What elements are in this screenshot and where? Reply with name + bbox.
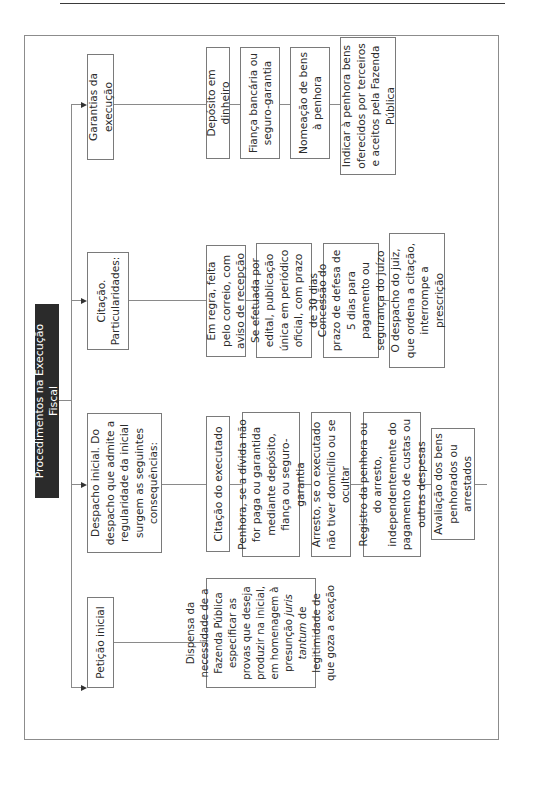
connector — [71, 104, 81, 105]
despacho-child-2: Penhora, se a dívida não for paga ou gar… — [242, 412, 300, 557]
citacao-child-3: Concessão do prazo de defesa de 5 dias p… — [323, 243, 379, 358]
root-title: Procedimentos na Execução Fiscal — [33, 309, 62, 493]
diagram-canvas: Procedimentos na Execução Fiscal Petição… — [24, 35, 499, 740]
node-peticao-inicial: Petição inicial — [87, 597, 114, 688]
connector — [71, 687, 81, 688]
node-label: Citação. Particularidades: — [94, 257, 123, 346]
connector — [71, 300, 81, 301]
node-label: Petição inicial — [93, 606, 108, 679]
despacho-child-4: Registro da penhora ou do arresto, indep… — [363, 412, 421, 557]
citacao-child-2: Se efetuada por edital, publicação única… — [256, 243, 312, 358]
garantias-child-2: Fiança bancária ou seguro-garantia — [240, 47, 280, 159]
page-top-rule — [60, 3, 505, 4]
garantias-child-4: Indicar à penhora bens oferecidos por te… — [340, 37, 396, 175]
citacao-child-4: O despacho do juiz, que ordena a citação… — [389, 233, 445, 368]
garantias-child-1: Depósito em dinheiro — [206, 47, 230, 159]
despacho-child-3: Arresto, se o executado não tiver domicí… — [311, 412, 351, 557]
node-label: Despacho inicial. Do despacho que admite… — [88, 418, 161, 548]
node-label: Garantias da execução — [86, 59, 115, 155]
garantias-child-3: Nomeação de bens à penhora — [290, 47, 330, 159]
node-despacho-inicial: Despacho inicial. Do despacho que admite… — [87, 413, 162, 553]
node-garantias-da-execucao: Garantias da execução — [87, 54, 114, 160]
peticao-child-text: Dispensa da necessidade de a Fazenda Púb… — [184, 583, 338, 683]
connector — [71, 104, 72, 688]
diagram-container: Procedimentos na Execução Fiscal Petição… — [24, 35, 499, 740]
citacao-child-1: Em regra, feita pelo correio, com aviso … — [206, 245, 246, 357]
node-citacao: Citação. Particularidades: — [87, 252, 129, 350]
despacho-child-5: Avaliação dos bens penhorados ou arresta… — [431, 428, 475, 540]
peticao-child-1: Dispensa da necessidade de a Fazenda Púb… — [206, 578, 316, 688]
root-node: Procedimentos na Execução Fiscal — [35, 304, 59, 498]
connector — [71, 484, 81, 485]
despacho-child-1: Citação do executado — [206, 416, 230, 552]
